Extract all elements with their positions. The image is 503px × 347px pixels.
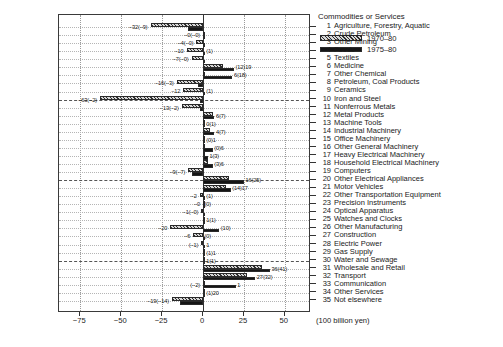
- chart-row: 1(1): [59, 257, 309, 265]
- chart-row: −2(1): [59, 192, 309, 200]
- category-tick-icon: [310, 195, 316, 196]
- bar-1970-80: [196, 40, 203, 44]
- category-tick-icon: [310, 138, 316, 139]
- chart-row: −13(−2): [59, 104, 309, 112]
- category-tick-icon: [310, 179, 316, 180]
- bar-group: [59, 63, 309, 71]
- category-number: 35: [318, 296, 331, 304]
- chart-figure: −32(−9)−0(−0)−4(−0)−10(1)−7(−0)(12)196(1…: [0, 0, 503, 347]
- chart-row: −10(1): [59, 47, 309, 55]
- data-value-label: (14)17: [232, 184, 248, 192]
- data-value-label: 16(25): [245, 176, 261, 184]
- category-name: Not elsewhere: [334, 296, 382, 304]
- data-value-label: −9(−7): [169, 168, 185, 176]
- data-value-label: −32(−9): [129, 23, 148, 31]
- bar-group: [59, 104, 309, 112]
- data-value-label: (3)6: [214, 160, 224, 168]
- bar-group: [59, 152, 309, 160]
- bar-1975-80: [180, 301, 203, 304]
- bar-group: [59, 87, 309, 95]
- data-value-label: 1(1): [206, 216, 216, 224]
- data-value-label: −63(−2): [78, 96, 97, 104]
- bar-group: [59, 128, 309, 136]
- bar-group: [59, 47, 309, 55]
- chart-row: −19(−14): [59, 297, 309, 305]
- bar-group: [59, 160, 309, 168]
- data-value-label: (10): [221, 224, 231, 232]
- bar-group: [59, 249, 309, 257]
- category-tick-icon: [310, 259, 316, 260]
- data-value-label: 27(32): [257, 273, 273, 281]
- chart-row: −9(−7): [59, 168, 309, 176]
- category-tick-icon: [310, 122, 316, 123]
- data-value-label: −4(−0): [178, 39, 194, 47]
- bar-1970-80: [183, 88, 203, 92]
- bar-1970-80: [192, 56, 203, 60]
- chart-row: −63(−2): [59, 96, 309, 104]
- category-tick-icon: [310, 187, 316, 188]
- data-value-label: −10: [174, 47, 183, 55]
- category-tick-icon: [310, 82, 316, 83]
- bar-group: [59, 257, 309, 265]
- chart-row: −20(10): [59, 224, 309, 232]
- data-value-label: (12)19: [236, 63, 252, 71]
- chart-row: (0)6: [59, 144, 309, 152]
- chart-row: (3)6: [59, 160, 309, 168]
- category-tick-icon: [310, 154, 316, 155]
- x-axis-unit-label: (100 billion yen): [316, 316, 370, 325]
- chart-row: −0(−0): [59, 31, 309, 39]
- data-value-label: (0)1: [206, 136, 216, 144]
- category-tick-icon: [310, 171, 316, 172]
- bar-group: [59, 297, 309, 305]
- data-value-label: (1): [206, 192, 213, 200]
- category-tick-icon: [310, 90, 316, 91]
- data-value-label: −20: [158, 224, 167, 232]
- chart-row: 36(41): [59, 265, 309, 273]
- category-tick-icon: [310, 211, 316, 212]
- chart-row: −16(−3): [59, 79, 309, 87]
- x-axis-tick-label: 0: [200, 316, 204, 325]
- bar-group: [59, 23, 309, 31]
- category-tick-icon: [310, 98, 316, 99]
- chart-row: −32(−9): [59, 23, 309, 31]
- category-tick-icon: [310, 58, 316, 59]
- chart-row: (0)1: [59, 136, 309, 144]
- plot-area: −32(−9)−0(−0)−4(−0)−10(1)−7(−0)(12)196(1…: [58, 14, 310, 312]
- bar-1970-80: [187, 48, 203, 52]
- chart-row: 1(3): [59, 152, 309, 160]
- chart-row: −7(−0): [59, 55, 309, 63]
- chart-row: 27(32): [59, 273, 309, 281]
- bar-group: [59, 192, 309, 200]
- x-axis-tick-label: −75: [73, 316, 86, 325]
- chart-row: −4(−0): [59, 39, 309, 47]
- chart-row: 4(7): [59, 128, 309, 136]
- data-value-label: −0(−0): [184, 31, 200, 39]
- chart-row: −12(1): [59, 87, 309, 95]
- category-tick-icon: [310, 243, 316, 244]
- data-value-label: (0)6: [214, 144, 224, 152]
- category-tick-icon: [310, 235, 316, 236]
- bar-group: [59, 120, 309, 128]
- data-value-label: −13(−2): [160, 104, 179, 112]
- data-value-label: 4(7): [216, 128, 226, 136]
- category-tick-icon: [310, 219, 316, 220]
- data-value-label: (−1): [189, 241, 199, 249]
- data-value-label: −12: [171, 87, 180, 95]
- x-axis-tick-label: −25: [155, 316, 168, 325]
- data-value-label: −2: [191, 192, 197, 200]
- x-axis-tick-label: 50: [280, 316, 288, 325]
- category-tick-icon: [310, 34, 316, 35]
- bar-1970-80: [193, 233, 203, 237]
- category-tick-icon: [310, 283, 316, 284]
- bar-group: [59, 289, 309, 297]
- bar-group: [59, 176, 309, 184]
- bar-group: [59, 184, 309, 192]
- chart-row: (12)19: [59, 63, 309, 71]
- data-value-label: −0: [194, 200, 200, 208]
- data-value-label: (−2): [190, 281, 200, 289]
- data-value-label: 6(7): [216, 112, 226, 120]
- data-value-label: (0): [205, 232, 212, 240]
- bar-group: [59, 281, 309, 289]
- chart-row: 6(18): [59, 71, 309, 79]
- data-value-label: (1): [206, 47, 213, 55]
